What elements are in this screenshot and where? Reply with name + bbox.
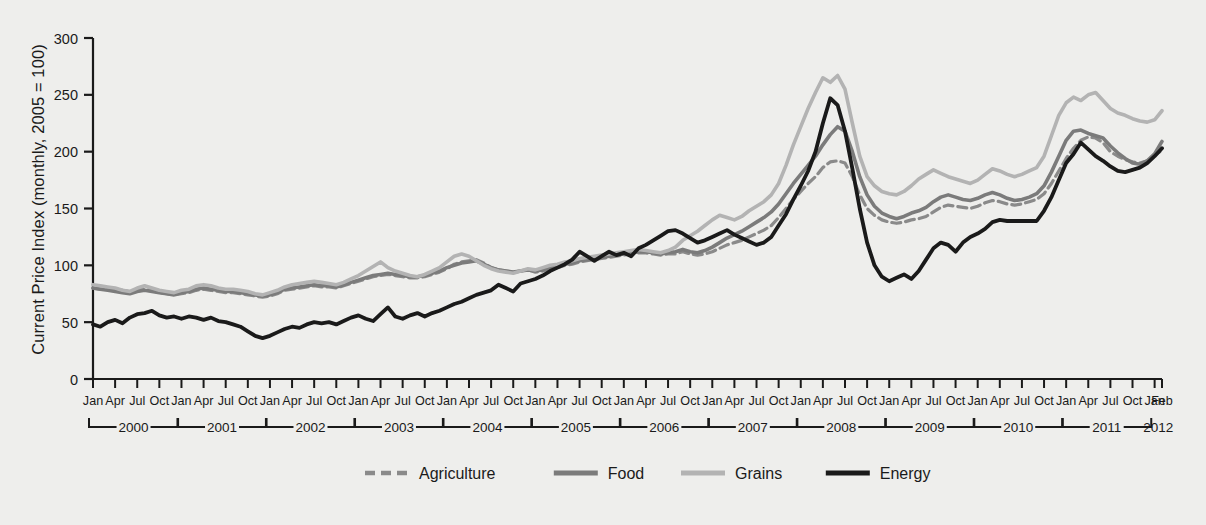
y-tick-label: 100 bbox=[54, 258, 78, 274]
x-tick-label: Apr bbox=[282, 394, 302, 408]
year-bracket-right bbox=[593, 418, 621, 427]
year-bracket-left bbox=[1062, 418, 1090, 427]
year-bracket-right bbox=[1035, 418, 1063, 427]
x-tick-label: Jan bbox=[791, 394, 811, 408]
x-tick-label: Oct bbox=[592, 394, 612, 408]
x-tick-label: Oct bbox=[769, 394, 789, 408]
x-tick-label: Jan bbox=[525, 394, 545, 408]
y-axis-ticks: 050100150200250300 bbox=[54, 31, 93, 388]
x-tick-label: Apr bbox=[371, 394, 391, 408]
x-tick-label: Apr bbox=[548, 394, 568, 408]
x-tick-label: Oct bbox=[680, 394, 700, 408]
year-label: 2011 bbox=[1092, 420, 1121, 435]
x-tick-label: Jan bbox=[171, 394, 191, 408]
x-tick-label: Jul bbox=[660, 394, 676, 408]
year-label: 2000 bbox=[119, 420, 149, 435]
x-tick-label: Oct bbox=[503, 394, 523, 408]
series-line-food bbox=[93, 127, 1162, 296]
x-tick-label: Oct bbox=[415, 394, 435, 408]
axis-lines bbox=[93, 38, 1162, 379]
year-bracket-right bbox=[151, 418, 179, 427]
x-tick-label: Apr bbox=[194, 394, 214, 408]
year-label: 2005 bbox=[561, 420, 591, 435]
year-bracket-left bbox=[89, 418, 117, 427]
year-label: 2006 bbox=[649, 420, 679, 435]
year-bracket-left bbox=[531, 418, 559, 427]
year-bracket-right bbox=[239, 418, 267, 427]
year-bracket-left bbox=[797, 418, 825, 427]
x-tick-label: Jan bbox=[702, 394, 722, 408]
x-tick-label: Jul bbox=[748, 394, 764, 408]
chart-canvas: 050100150200250300 JanAprJulOctJanAprJul… bbox=[0, 0, 1206, 525]
y-tick-label: 300 bbox=[54, 31, 78, 47]
year-bracket-left bbox=[620, 418, 648, 427]
year-bracket-right bbox=[947, 418, 975, 427]
x-tick-label: Feb bbox=[1151, 394, 1173, 408]
x-tick-label: Jul bbox=[1102, 394, 1118, 408]
y-tick-label: 0 bbox=[70, 372, 78, 388]
x-tick-label: Oct bbox=[946, 394, 966, 408]
x-tick-label: Jan bbox=[83, 394, 103, 408]
year-bracket-right bbox=[770, 418, 798, 427]
y-axis-title: Current Price Index (monthly, 2005 = 100… bbox=[29, 20, 48, 380]
year-label: 2009 bbox=[915, 420, 945, 435]
year-label: 2002 bbox=[295, 420, 325, 435]
y-tick-label: 150 bbox=[54, 201, 78, 217]
x-tick-label: Apr bbox=[990, 394, 1010, 408]
x-tick-label: Apr bbox=[813, 394, 833, 408]
legend-label-energy: Energy bbox=[880, 465, 931, 482]
year-bracket-right bbox=[504, 418, 532, 427]
x-tick-label: Apr bbox=[459, 394, 479, 408]
x-tick-label: Oct bbox=[326, 394, 346, 408]
year-bracket-right bbox=[681, 418, 709, 427]
year-bracket-left bbox=[443, 418, 471, 427]
year-label: 2001 bbox=[207, 420, 237, 435]
year-label: 2003 bbox=[384, 420, 414, 435]
x-axis-year-brackets: 2000200120022003200420052006200720082009… bbox=[89, 418, 1173, 435]
x-tick-label: Jan bbox=[437, 394, 457, 408]
x-tick-label: Jul bbox=[395, 394, 411, 408]
x-tick-label: Oct bbox=[857, 394, 877, 408]
year-bracket-left bbox=[974, 418, 1002, 427]
legend-label-agriculture: Agriculture bbox=[419, 465, 496, 482]
year-label: 2010 bbox=[1003, 420, 1033, 435]
year-bracket-right bbox=[416, 418, 444, 427]
year-label: 2007 bbox=[738, 420, 768, 435]
x-axis-ticks bbox=[93, 379, 1162, 388]
x-tick-label: Jul bbox=[306, 394, 322, 408]
x-tick-label: Apr bbox=[902, 394, 922, 408]
x-tick-label: Jul bbox=[483, 394, 499, 408]
x-axis-tick-labels: JanAprJulOctJanAprJulOctJanAprJulOctJanA… bbox=[83, 394, 1173, 408]
y-tick-label: 200 bbox=[54, 144, 78, 160]
x-tick-label: Oct bbox=[1123, 394, 1143, 408]
x-tick-label: Oct bbox=[1034, 394, 1054, 408]
x-tick-label: Jan bbox=[614, 394, 634, 408]
year-bracket-left bbox=[708, 418, 736, 427]
data-series-group bbox=[93, 76, 1162, 339]
x-tick-label: Jul bbox=[218, 394, 234, 408]
x-tick-label: Jan bbox=[1056, 394, 1076, 408]
year-label: 2004 bbox=[472, 420, 503, 435]
y-tick-label: 250 bbox=[54, 87, 78, 103]
legend-label-food: Food bbox=[608, 465, 644, 482]
x-tick-label: Apr bbox=[1078, 394, 1098, 408]
legend-label-grains: Grains bbox=[735, 465, 782, 482]
year-bracket-right bbox=[327, 418, 355, 427]
year-label: 2012 bbox=[1143, 420, 1173, 435]
series-line-agriculture bbox=[93, 137, 1162, 297]
price-index-chart-figure: Current Price Index (monthly, 2005 = 100… bbox=[0, 0, 1206, 525]
x-tick-label: Oct bbox=[238, 394, 258, 408]
year-bracket-left bbox=[885, 418, 913, 427]
x-tick-label: Apr bbox=[105, 394, 125, 408]
x-tick-label: Jul bbox=[129, 394, 145, 408]
x-tick-label: Jul bbox=[925, 394, 941, 408]
x-tick-label: Oct bbox=[150, 394, 170, 408]
year-bracket-left bbox=[177, 418, 205, 427]
x-tick-label: Jan bbox=[260, 394, 280, 408]
x-tick-label: Jan bbox=[968, 394, 988, 408]
year-bracket-right bbox=[858, 418, 886, 427]
year-label: 2008 bbox=[826, 420, 856, 435]
x-tick-label: Apr bbox=[725, 394, 745, 408]
y-tick-label: 50 bbox=[62, 315, 78, 331]
x-tick-label: Jan bbox=[879, 394, 899, 408]
